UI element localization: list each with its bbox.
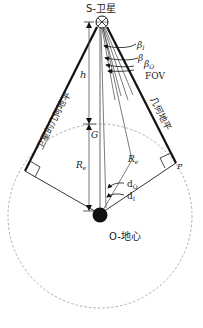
fov-ray-4 bbox=[104, 28, 128, 100]
fov-label: FOV bbox=[145, 71, 165, 81]
earth-satellite-geometry-diagram: S-卫星 O-地心 h G Re Re P βI β βO FOV dO dI … bbox=[0, 0, 203, 328]
right-horizon-label: 几何地平 bbox=[148, 95, 174, 132]
height-arrow-top bbox=[86, 22, 92, 28]
fov-ray-1 bbox=[101, 28, 106, 208]
tangent-point-label: P bbox=[176, 162, 183, 171]
earth-radius-right-label: Re bbox=[127, 154, 139, 165]
height-arrow-bottom bbox=[86, 118, 92, 124]
d-o-label: dO bbox=[127, 179, 138, 190]
ground-point-label: G bbox=[91, 130, 98, 140]
height-label: h bbox=[80, 69, 86, 80]
radius-arrow-bottom bbox=[86, 205, 92, 211]
right-radius-line bbox=[100, 163, 176, 214]
earth-radius-left-label: Re bbox=[75, 160, 87, 171]
diagram-canvas: S-卫星 O-地心 h G Re Re P βI β βO FOV dO dI … bbox=[0, 0, 203, 328]
earth-center-dot bbox=[93, 208, 108, 223]
beta-i-label: βI bbox=[136, 40, 145, 51]
fov-ray-5 bbox=[105, 28, 133, 95]
d-i-label: dI bbox=[127, 191, 136, 202]
left-horizon-label: 卫星的几何地平 bbox=[34, 90, 72, 151]
beta-o-label: βO bbox=[143, 59, 154, 70]
d-i-arrow bbox=[107, 194, 124, 197]
beta-label: β bbox=[137, 53, 143, 63]
beta-o-arrow bbox=[106, 65, 134, 67]
beta-i-arrow bbox=[104, 44, 136, 48]
satellite-icon bbox=[96, 16, 108, 28]
right-right-angle-marker bbox=[160, 153, 171, 168]
earth-center-label: O-地心 bbox=[109, 230, 141, 242]
satellite-label: S-卫星 bbox=[86, 3, 116, 14]
